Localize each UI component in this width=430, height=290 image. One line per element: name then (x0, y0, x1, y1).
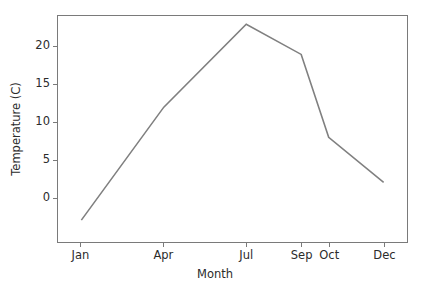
x-axis-label: Month (0, 267, 430, 281)
y-tick-label: 5 (10, 154, 50, 166)
x-tick-label: Apr (133, 250, 193, 262)
y-tick-label: 20 (10, 40, 50, 52)
x-tick-mark (80, 243, 81, 247)
x-tick-mark (163, 243, 164, 247)
plot-area (57, 15, 408, 243)
temperature-line-series (58, 16, 407, 242)
series-polyline (81, 24, 383, 220)
y-tick-label: 0 (10, 192, 50, 204)
x-tick-mark (301, 243, 302, 247)
y-tick-label: 10 (10, 116, 50, 128)
x-tick-label: Dec (355, 250, 415, 262)
x-tick-mark (384, 243, 385, 247)
x-tick-mark (246, 243, 247, 247)
y-tick-label: 15 (10, 78, 50, 90)
chart-screenshot: Temperature (C) 05101520 JanAprJulSepOct… (0, 0, 430, 290)
x-tick-label: Jul (216, 250, 276, 262)
x-tick-mark (329, 243, 330, 247)
x-tick-label: Oct (299, 250, 359, 262)
x-tick-label: Jan (50, 250, 110, 262)
